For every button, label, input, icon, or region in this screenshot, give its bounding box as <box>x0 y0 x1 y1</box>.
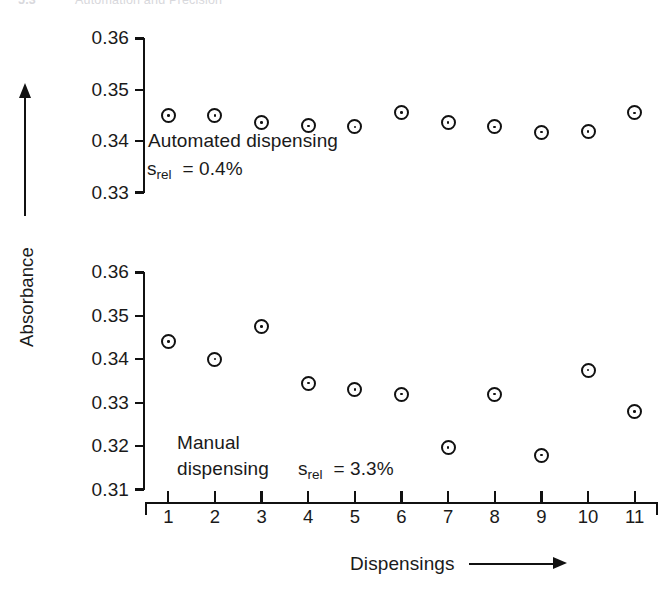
y-axis-tick-label: 0.33 <box>92 392 129 414</box>
srel-subscript-automated: rel <box>157 167 172 182</box>
x-axis-tick: 9 <box>540 491 542 504</box>
srel-symbol-automated: s <box>147 158 157 179</box>
x-axis-tick-label: 11 <box>625 506 644 528</box>
x-axis-tick: 6 <box>400 491 402 504</box>
y-axis-tick-label: 0.34 <box>92 130 129 152</box>
y-axis-tick: 0.36 <box>135 37 144 39</box>
annotation-automated-srel: srel = 0.4% <box>147 158 243 180</box>
x-axis-tick: 7 <box>447 491 449 504</box>
x-axis-tick: 5 <box>354 491 356 504</box>
y-axis-tick-label: 0.35 <box>92 305 129 327</box>
x-axis-tick: 3 <box>260 491 262 504</box>
data-point-marker <box>627 404 642 419</box>
y-axis-tick-label: 0.36 <box>92 261 129 283</box>
y-axis-tick: 0.32 <box>135 445 144 447</box>
x-axis-label: Dispensings <box>350 553 455 575</box>
data-point-marker <box>627 105 642 120</box>
x-axis-tick: 11 <box>634 491 636 504</box>
data-point-marker <box>254 115 269 130</box>
x-axis-tick-label: 2 <box>210 506 220 528</box>
x-axis-tick-label: 7 <box>443 506 453 528</box>
x-axis-tick: 2 <box>214 491 216 504</box>
x-axis-tick-label: 6 <box>396 506 406 528</box>
srel-value-automated: = 0.4% <box>182 158 242 179</box>
srel-subscript-manual: rel <box>308 467 323 482</box>
y-axis-tick: 0.34 <box>135 358 144 360</box>
data-point-marker <box>347 119 362 134</box>
x-axis-arrow-icon <box>469 563 555 565</box>
x-axis-tick: 4 <box>307 491 309 504</box>
x-axis-tick-label: 8 <box>490 506 500 528</box>
data-point-marker <box>441 440 456 455</box>
x-axis: 1234567891011 <box>145 502 658 504</box>
x-axis-tick-label: 4 <box>303 506 313 528</box>
srel-symbol-manual: s <box>298 458 308 479</box>
y-axis-tick-label: 0.31 <box>92 479 129 501</box>
x-axis-tick-label: 10 <box>578 506 599 528</box>
y-axis-label-group: Absorbance <box>4 96 44 466</box>
x-axis-tick-label: 5 <box>350 506 360 528</box>
data-point-marker <box>207 352 222 367</box>
annotation-automated-name: Automated dispensing <box>148 130 338 152</box>
y-axis-tick: 0.33 <box>135 402 144 404</box>
annotation-manual-name-line1: Manual <box>177 432 240 454</box>
data-point-marker <box>301 376 316 391</box>
data-point-marker <box>534 448 549 463</box>
x-axis-tick: 1 <box>167 491 169 504</box>
data-point-marker <box>487 387 502 402</box>
y-axis-tick-label: 0.34 <box>92 348 129 370</box>
y-axis-tick: 0.31 <box>135 489 144 491</box>
data-point-marker <box>254 319 269 334</box>
y-axis-tick-label: 0.32 <box>92 435 129 457</box>
x-axis-tick: 8 <box>494 491 496 504</box>
data-point-marker <box>394 387 409 402</box>
y-axis-arrow-icon <box>24 96 26 216</box>
data-point-marker <box>394 105 409 120</box>
x-axis-tick-label: 1 <box>163 506 173 528</box>
data-point-marker <box>534 125 549 140</box>
data-point-marker <box>347 382 362 397</box>
y-axis-tick-label: 0.35 <box>92 79 129 101</box>
x-axis-label-group: Dispensings <box>350 553 555 575</box>
y-axis-tick: 0.34 <box>135 140 144 142</box>
x-axis-tick: 10 <box>587 491 589 504</box>
y-axis-tick-label: 0.36 <box>92 27 129 49</box>
data-point-marker <box>161 334 176 349</box>
y-axis-tick: 0.35 <box>135 315 144 317</box>
data-point-marker <box>161 108 176 123</box>
annotation-manual-name-line2: dispensing <box>177 458 269 480</box>
y-axis-tick: 0.35 <box>135 89 144 91</box>
annotation-manual-srel: srel = 3.3% <box>298 458 394 480</box>
figure-canvas: Absorbance 0.330.340.350.36 Automated di… <box>0 0 667 610</box>
data-point-marker <box>581 363 596 378</box>
x-axis-tick-label: 9 <box>536 506 546 528</box>
y-axis-tick: 0.36 <box>135 271 144 273</box>
x-axis-tick-label: 3 <box>256 506 266 528</box>
y-axis-label: Absorbance <box>16 212 38 382</box>
srel-value-manual: = 3.3% <box>333 458 393 479</box>
data-point-marker <box>207 108 222 123</box>
data-point-marker <box>581 124 596 139</box>
data-point-marker <box>487 119 502 134</box>
data-point-marker <box>441 115 456 130</box>
y-axis-tick-label: 0.33 <box>92 182 129 204</box>
y-axis-tick: 0.33 <box>135 192 144 194</box>
